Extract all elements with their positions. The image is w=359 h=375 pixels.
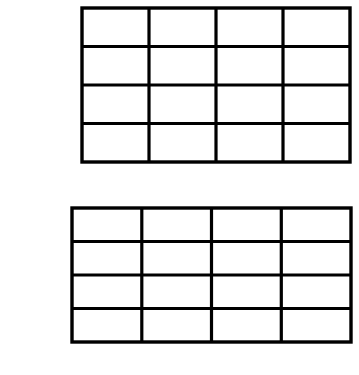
figure-two-plots — [0, 0, 359, 375]
chart-panel-delta-tau — [0, 188, 359, 375]
chart-svg-top — [0, 0, 359, 188]
chart-panel-delta-T — [0, 0, 359, 188]
chart-svg-bottom — [0, 188, 359, 375]
